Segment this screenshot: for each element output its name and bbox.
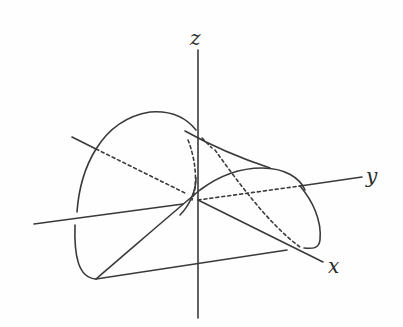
x-axis-negative	[72, 137, 96, 149]
y-axis-hidden	[198, 186, 300, 200]
z-axis-label: z	[190, 28, 201, 48]
x-axis-negative-hidden	[96, 149, 185, 193]
figure-canvas: z y x	[0, 0, 403, 327]
right-curve	[300, 186, 320, 248]
left-curve	[77, 112, 196, 212]
top-hidden	[202, 138, 212, 148]
y-axis-outer	[300, 177, 362, 186]
left-curve-lower	[75, 225, 96, 279]
y-axis-negative	[34, 204, 183, 224]
x-axis-label: x	[328, 256, 339, 276]
surface-diagram	[0, 0, 403, 327]
y-axis-label: y	[366, 166, 377, 186]
right-curve-hidden	[215, 150, 300, 247]
